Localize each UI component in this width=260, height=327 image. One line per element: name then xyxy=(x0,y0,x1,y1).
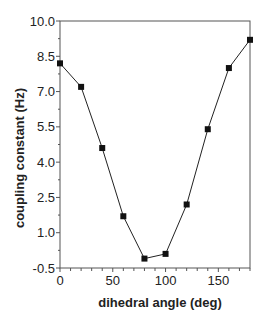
square-marker xyxy=(120,213,126,219)
x-axis-ticks: 050100150 xyxy=(56,268,250,288)
y-tick-label: 7.0 xyxy=(37,84,55,99)
x-tick-label: 50 xyxy=(106,273,120,288)
square-marker xyxy=(78,84,84,90)
x-axis-title: dihedral angle (deg) xyxy=(98,295,222,310)
square-marker xyxy=(184,201,190,207)
y-tick-label: 4.0 xyxy=(37,155,55,170)
y-tick-label: 1.0 xyxy=(37,225,55,240)
y-tick-label: -0.5 xyxy=(33,261,55,276)
y-axis-title: coupling constant (Hz) xyxy=(12,88,27,228)
y-tick-label: 2.5 xyxy=(37,190,55,205)
y-tick-label: 10.0 xyxy=(30,14,55,29)
plot-border xyxy=(60,21,250,268)
square-marker xyxy=(141,256,147,262)
chart: 050100150 -0.51.02.54.05.57.08.510.0 dih… xyxy=(0,0,260,327)
y-axis-ticks: -0.51.02.54.05.57.08.510.0 xyxy=(30,14,60,276)
series-line xyxy=(60,40,250,259)
x-tick-label: 0 xyxy=(56,273,63,288)
square-marker xyxy=(57,60,63,66)
data-series xyxy=(57,37,253,262)
x-tick-label: 100 xyxy=(155,273,177,288)
plot-frame xyxy=(60,21,250,268)
square-marker xyxy=(205,126,211,132)
square-marker xyxy=(247,37,253,43)
y-tick-label: 8.5 xyxy=(37,49,55,64)
square-marker xyxy=(163,251,169,257)
y-tick-label: 5.5 xyxy=(37,119,55,134)
x-tick-label: 150 xyxy=(207,273,229,288)
square-marker xyxy=(99,145,105,151)
square-marker xyxy=(226,65,232,71)
